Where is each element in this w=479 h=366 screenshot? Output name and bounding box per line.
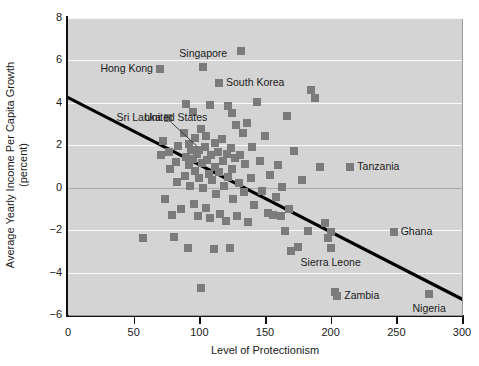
x-tick-label-50: 50 (114, 326, 154, 338)
x-tick-label-200: 200 (311, 326, 351, 338)
y-tick-label--2: −2 (36, 223, 62, 235)
y-tick-label-4: 4 (36, 96, 62, 108)
y-tick-label-8: 8 (36, 11, 62, 23)
y-axis-title-line1: Average Yearly Income Per Capita Growth (4, 62, 16, 268)
x-tick-250 (396, 317, 398, 324)
x-tick-label-0: 0 (48, 326, 88, 338)
y-tick-label--4: −4 (36, 266, 62, 278)
x-tick-label-100: 100 (179, 326, 219, 338)
x-tick-200 (331, 317, 333, 324)
y-axis-title-line2: (percent) (17, 143, 29, 187)
x-axis-title: Level of Protectionism (68, 344, 462, 356)
y-axis-title: Average Yearly Income Per Capita Growth … (0, 0, 34, 330)
scatter-plot-figure: Average Yearly Income Per Capita Growth … (0, 0, 479, 366)
y-tick-label--6: −6 (36, 308, 62, 320)
y-tick-label-6: 6 (36, 53, 62, 65)
y-tick-label-0: 0 (36, 181, 62, 193)
leader-line-svg (68, 18, 462, 315)
y-tick-label-2: 2 (36, 138, 62, 150)
x-tick-300 (462, 317, 464, 324)
x-tick-label-250: 250 (376, 326, 416, 338)
x-tick-label-300: 300 (442, 326, 479, 338)
x-tick-100 (199, 317, 201, 324)
plot-area: Hong KongSri LankaUnited StatesSingapore… (68, 18, 462, 315)
x-tick-50 (134, 317, 136, 324)
united-states-leader-line (171, 123, 197, 147)
x-tick-label-150: 150 (245, 326, 285, 338)
x-tick-150 (265, 317, 267, 324)
